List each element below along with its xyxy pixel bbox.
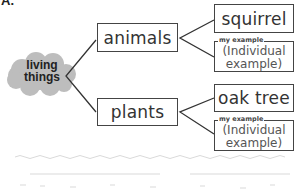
my-example-tag: my example [218, 36, 264, 45]
my-example-box-plants[interactable]: my example (Individual example) [214, 120, 294, 151]
my-example-box-animals[interactable]: my example (Individual example) [214, 41, 294, 72]
my-example-tag: my example [218, 115, 264, 124]
category-animals-box: animals [97, 23, 178, 52]
category-label: animals [104, 28, 172, 48]
decorative-ground [15, 156, 290, 189]
category-plants-box: plants [97, 98, 178, 126]
category-label: plants [111, 102, 164, 122]
placeholder-line2: example) [226, 58, 282, 71]
root-label-line2: things [14, 71, 70, 83]
placeholder-line2: example) [226, 137, 282, 150]
placeholder-line1: (Individual [222, 124, 285, 137]
example-oak-tree-box: oak tree [214, 84, 294, 112]
example-label: squirrel [221, 9, 286, 29]
example-label: oak tree [218, 88, 290, 108]
example-squirrel-box: squirrel [214, 4, 294, 33]
placeholder-line1: (Individual [222, 45, 285, 58]
root-node-living-things: living things [14, 59, 70, 83]
